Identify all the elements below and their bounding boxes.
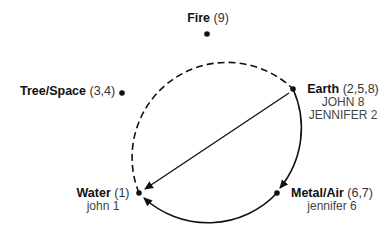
node-name: Earth [307,82,339,96]
label-water: Water (1) john 1 [75,186,131,213]
label-earth: Earth (2,5,8) JOHN 8 JENNIFER 2 [303,82,383,122]
arc-earth-to-metal-air [280,89,301,188]
water-annotation-john: john 1 [75,200,131,213]
label-tree-space: Tree/Space (3,4) [20,84,115,98]
metal-air-annotation-jennifer: jennifer 6 [290,200,374,213]
node-name: Fire [187,11,210,25]
node-numbers: (3,4) [90,84,116,98]
node-name: Tree/Space [20,84,86,98]
node-dot-water [136,190,142,196]
node-numbers: (1) [114,186,129,200]
chord-earth-to-water [145,93,289,189]
node-numbers: (6,7) [347,186,373,200]
node-numbers: (2,5,8) [343,82,379,96]
node-dot-earth [290,86,296,92]
node-dot-tree-space [119,90,125,96]
label-fire: Fire (9) [177,11,239,25]
earth-annotation-jennifer: JENNIFER 2 [303,109,383,122]
node-name: Water [76,186,110,200]
label-metal-air: Metal/Air (6,7) jennifer 6 [290,186,374,213]
node-name: Metal/Air [291,186,344,200]
node-numbers: (9) [214,11,229,25]
node-dot-fire [204,31,210,37]
node-dot-metal-air [274,190,280,196]
dashed-arc-water-to-earth [132,62,293,193]
arc-metal-air-to-water [144,193,277,223]
